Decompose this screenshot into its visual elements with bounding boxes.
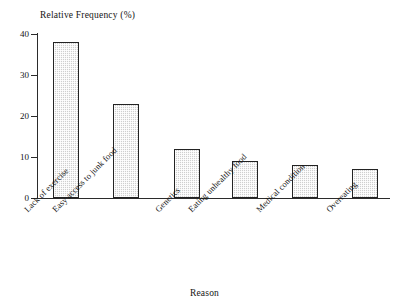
y-tick-label-20: 20 [5,111,29,121]
y-tick-label-0: 0 [5,193,29,203]
bar-chart: Relative Frequency (%) 0 10 20 30 40 Lac… [0,0,409,308]
y-tick-label-30: 30 [5,70,29,80]
y-tick-30 [31,75,37,76]
plot-area: 0 10 20 30 40 Lack of exercise Easy acce… [0,0,409,308]
y-tick-40 [31,34,37,35]
y-tick-label-10: 10 [5,152,29,162]
y-tick-10 [31,157,37,158]
x-axis-title: Reason [0,288,409,298]
y-tick-label-40: 40 [5,29,29,39]
y-axis-line [37,33,38,199]
x-tick-label-genetics: Genetics [153,185,182,214]
y-tick-20 [31,116,37,117]
